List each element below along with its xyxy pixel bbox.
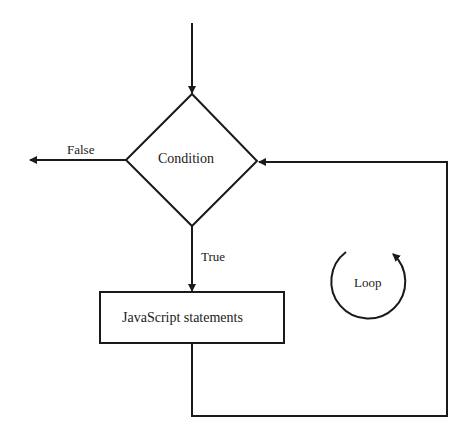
true-label: True [201, 250, 225, 263]
condition-label: Condition [158, 152, 214, 166]
loop-label: Loop [354, 276, 381, 289]
statements-label: JavaScript statements [122, 311, 243, 325]
false-label: False [67, 143, 94, 156]
flowchart-svg [0, 0, 470, 433]
loop-back-arrow [192, 162, 447, 416]
flowchart-canvas: Condition False True JavaScript statemen… [0, 0, 470, 433]
